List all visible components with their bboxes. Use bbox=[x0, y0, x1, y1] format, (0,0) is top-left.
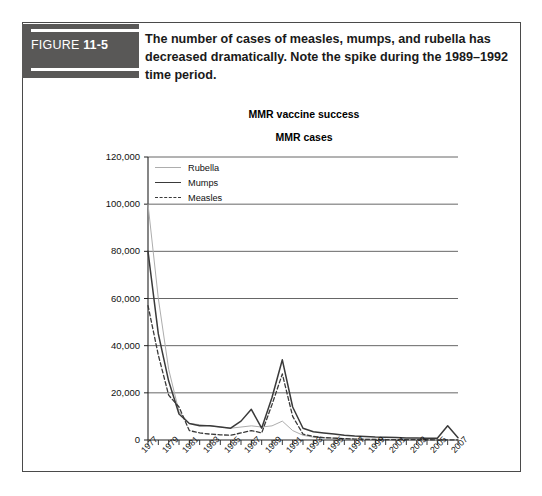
y-axis-tick-label: 0 bbox=[88, 434, 140, 445]
y-axis-tick-label: 60,000 bbox=[88, 293, 140, 304]
legend-label-rubella: Rubella bbox=[188, 163, 219, 173]
series-line-rubella bbox=[148, 204, 458, 440]
figure-label-rule-bottom bbox=[31, 68, 139, 71]
figure-label-word: FIGURE bbox=[31, 38, 79, 52]
figure-caption: The number of cases of measles, mumps, a… bbox=[145, 31, 520, 85]
figure-label-rule-top bbox=[31, 29, 139, 32]
figure-label-number: 11-5 bbox=[83, 38, 108, 52]
chart-legend: Rubella Mumps Measles bbox=[155, 160, 222, 205]
legend-item-rubella: Rubella bbox=[155, 160, 222, 175]
y-axis-tick-label: 120,000 bbox=[88, 151, 140, 162]
legend-label-mumps: Mumps bbox=[188, 178, 218, 188]
y-axis-tick-label: 20,000 bbox=[88, 387, 140, 398]
legend-item-mumps: Mumps bbox=[155, 175, 222, 190]
y-axis-tick-label: 100,000 bbox=[88, 198, 140, 209]
legend-label-measles: Measles bbox=[188, 193, 222, 203]
legend-line-measles-icon bbox=[155, 197, 181, 198]
legend-item-measles: Measles bbox=[155, 190, 222, 205]
figure-label-text: FIGURE 11-5 bbox=[31, 38, 135, 52]
series-line-mumps bbox=[148, 251, 458, 438]
y-axis-tick-label: 40,000 bbox=[88, 340, 140, 351]
legend-line-rubella-icon bbox=[155, 167, 181, 168]
figure-root: FIGURE 11-5 The number of cases of measl… bbox=[0, 0, 542, 496]
series-line-measles bbox=[148, 306, 458, 440]
y-axis-tick-label: 80,000 bbox=[88, 245, 140, 256]
legend-line-mumps-icon bbox=[155, 182, 181, 183]
